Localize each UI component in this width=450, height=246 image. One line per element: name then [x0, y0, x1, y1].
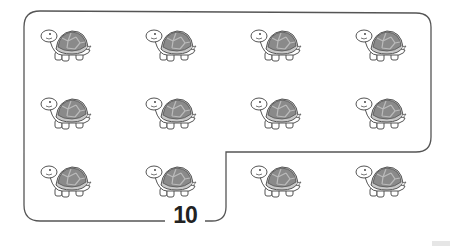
- turtle-icon: [145, 25, 197, 65]
- turtle-icon: [250, 25, 302, 65]
- turtle-icon: [40, 161, 92, 201]
- turtle-icon: [250, 93, 302, 133]
- turtle-icon: [145, 93, 197, 133]
- turtle-icon: [40, 93, 92, 133]
- turtle-icon: [355, 161, 407, 201]
- group-count-label: 10: [168, 200, 202, 230]
- turtle-icon: [355, 93, 407, 133]
- turtle-icon: [145, 161, 197, 201]
- turtle-icon: [355, 25, 407, 65]
- turtle-icon: [250, 161, 302, 201]
- turtle-icon: [40, 25, 92, 65]
- corner-mark: [432, 241, 450, 246]
